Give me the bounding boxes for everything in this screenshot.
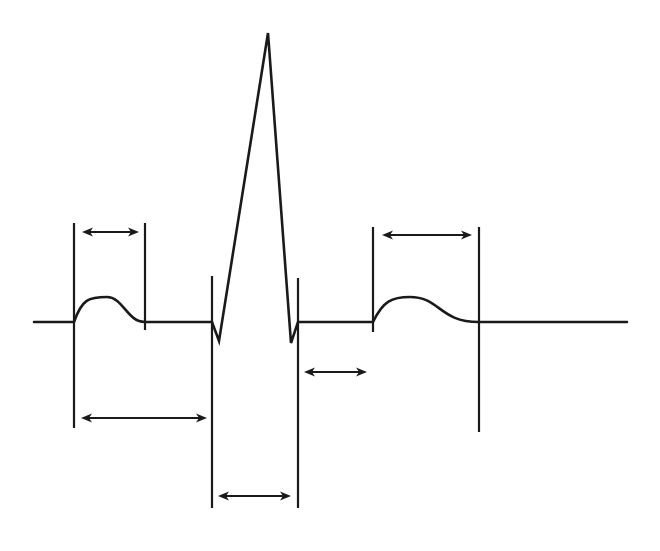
st-segment-arrow: ST segment xyxy=(304,368,367,377)
interval-marker-lines xyxy=(74,223,479,508)
p-wave-duration-arrow: P wave duration xyxy=(82,228,139,237)
qrs-duration-arrow: QRS duration xyxy=(218,492,291,501)
ecg-diagram: P wave durationPR intervalQRS durationST… xyxy=(0,0,660,551)
pr-interval-arrow: PR interval xyxy=(81,414,207,423)
interval-arrows: P wave durationPR intervalQRS durationST… xyxy=(81,228,472,501)
ecg-trace xyxy=(34,33,627,343)
t-wave-duration-arrow: T wave duration xyxy=(382,231,472,240)
